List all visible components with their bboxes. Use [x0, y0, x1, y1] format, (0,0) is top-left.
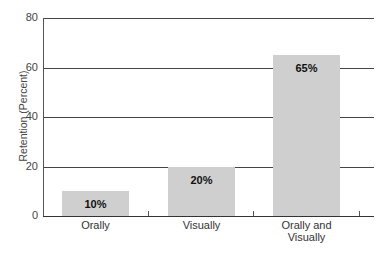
bar-value-label: 65% [273, 62, 340, 74]
x-category-label: Orally andVisually [252, 219, 362, 243]
y-tick-label: 0 [14, 209, 38, 221]
y-tick-label: 60 [14, 61, 38, 73]
x-tick [253, 211, 254, 216]
y-tick-label: 80 [14, 11, 38, 23]
bar: 10% [62, 191, 129, 216]
x-category-label-line: Orally and [252, 219, 362, 231]
x-tick [359, 211, 360, 216]
bar-value-label: 20% [168, 174, 235, 186]
y-tick-label: 20 [14, 160, 38, 172]
x-category-label-line: Visually [252, 231, 362, 243]
y-tick-label: 40 [14, 110, 38, 122]
bar: 20% [168, 167, 235, 216]
gridline [43, 18, 374, 19]
y-axis-line [43, 18, 44, 216]
bar: 65% [273, 55, 340, 216]
x-category-label: Visually [147, 219, 257, 231]
x-category-label-line: Visually [147, 219, 257, 231]
bar-value-label: 10% [62, 198, 129, 210]
x-category-label: Orally [41, 219, 151, 231]
x-tick [148, 211, 149, 216]
x-axis-line [43, 216, 374, 217]
x-category-label-line: Orally [41, 219, 151, 231]
